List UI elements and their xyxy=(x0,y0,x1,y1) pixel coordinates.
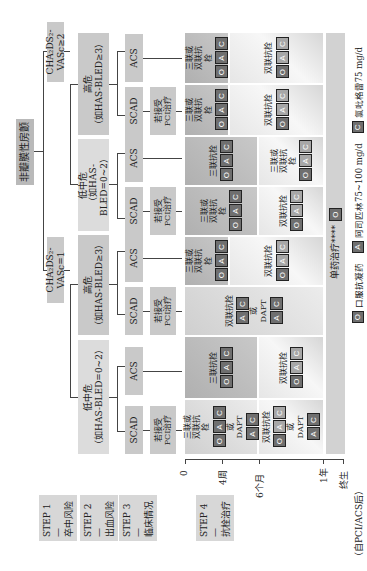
treatment-g1-acs-early: 三联抗栓 OAC xyxy=(185,337,257,398)
scad-node-2: SCAD xyxy=(125,287,143,335)
pci-node-1: 若接受PCI治疗 xyxy=(150,406,176,454)
treatment-g4-acs-late: 双联抗栓 OAC xyxy=(230,33,323,83)
treatment-g2-acs-early: 三联或双联抗栓 OAC xyxy=(185,237,228,285)
treatment-g4-scad-early: 三联或双联抗栓 OAC xyxy=(185,85,228,135)
treatment-g3-acs-late: 三联或双联抗栓 OAC xyxy=(259,137,323,185)
low-bleed-risk-node-1: 低中危（如HAS-BLED=0~2） xyxy=(78,340,109,454)
low-bleed-risk-node-2: 低中危（如HAS-BLED=0~2） xyxy=(78,139,109,231)
tick-6m: 6个月 xyxy=(253,474,266,498)
drug-combo-oac: OAC xyxy=(276,90,289,131)
cha2ds2-vasc-ge2-node: CHA₂DS₂-VASc≥2 xyxy=(47,22,64,82)
drug-combo-oac: OAC xyxy=(290,347,303,388)
drug-combo-oac: OAC xyxy=(213,407,226,448)
treatment-g4-scad-late: 双联抗栓 OAC xyxy=(230,85,323,135)
pci-node-4: 若接受PCI治疗 xyxy=(150,87,176,135)
acs-node-4: ACS xyxy=(125,34,143,82)
pci-node-2: 若接受PCI治疗 xyxy=(150,287,176,335)
drug-combo-oac: OAC xyxy=(273,407,286,448)
drug-combo-oac: OAC xyxy=(299,141,312,182)
acs-node-2: ACS xyxy=(125,234,143,282)
drug-combo-oac: OAC xyxy=(220,347,233,388)
drug-combo-oac: OAC xyxy=(290,191,303,232)
timeline-note: （自PCI/ACS后） xyxy=(352,486,365,561)
connector xyxy=(43,51,44,271)
drug-combo-oac: OAC xyxy=(215,241,228,282)
treatment-g1-scad-early: 三联或双联抗栓 OAC 或 DAPT AC xyxy=(185,400,257,454)
drug-combo-ac: AC xyxy=(246,414,259,441)
timeline-axis xyxy=(185,459,343,460)
tick-0: 0 xyxy=(179,470,189,476)
high-bleed-risk-node-2: 高危（如HAS-BLED≥3） xyxy=(78,33,109,135)
acs-node-3: ACS xyxy=(125,134,143,182)
treatment-g3-scad-late: 双联抗栓 OAC xyxy=(259,187,323,235)
pci-node-3: 若接受PCI治疗 xyxy=(150,187,176,235)
drug-combo-oac: OAC xyxy=(220,141,233,182)
flowchart-stage: 非瓣膜性房颤 CHA₂DS₂-VASc≥2 CHA₂DS₂-VASc=1 高危（… xyxy=(0,0,367,571)
treatment-g2-acs-late: 双联抗栓 OAC xyxy=(230,237,323,285)
legend-item-a: A阿司匹林75~100 mg/d xyxy=(352,143,364,253)
treatment-g3-scad-early: 三联或双联抗栓 OAC xyxy=(185,187,257,235)
step3-label: STEP 3—临床情况 xyxy=(119,495,157,541)
legend: O口服抗凝药 A阿司匹林75~100 mg/d C氯吡格雷75 mg/d xyxy=(352,47,364,323)
tick-4w: 4周 xyxy=(216,470,229,485)
treatment-g4-acs-early: 三联或双联抗栓 OAC xyxy=(185,33,228,83)
drug-combo-oac: OAC xyxy=(215,90,228,131)
drug-combo-oac: OAC xyxy=(215,38,228,79)
treatment-g2-scad: 双联抗栓 AC 或 DAPT AC xyxy=(185,287,323,335)
root-node: 非瓣膜性房颤 xyxy=(16,119,34,185)
legend-item-o: O口服抗凝药 xyxy=(352,263,364,323)
tick-1y: 1年 xyxy=(317,468,330,483)
step4-label: STEP 4—抗栓治疗 xyxy=(196,495,234,541)
acs-node-1: ACS xyxy=(125,347,143,395)
drug-combo-ac: AC xyxy=(236,298,249,325)
step2-label: STEP 2—出血风险 xyxy=(80,495,118,541)
treatment-g1-acs-late: 双联抗栓 OAC xyxy=(259,337,323,398)
step1-label: STEP 1—卒中风险 xyxy=(39,495,77,541)
drug-combo-oac: OAC xyxy=(276,241,289,282)
connector xyxy=(34,151,43,152)
drug-combo-oac: OAC xyxy=(276,38,289,79)
drug-combo-ac: AC xyxy=(307,414,320,441)
cha2ds2-vasc-eq1-node: CHA₂DS₂-VASc=1 xyxy=(47,237,64,303)
legend-item-c: C氯吡格雷75 mg/d xyxy=(352,47,364,133)
drug-combo-o: O xyxy=(329,208,342,221)
high-bleed-risk-node-1: 高危（如HAS-BLED≥3） xyxy=(78,235,109,335)
scad-node-1: SCAD xyxy=(125,406,143,454)
treatment-g1-scad-late: 双联抗栓 OAC 或 DAPT AC xyxy=(259,400,323,454)
treatment-g3-acs-early: 三联抗栓 OAC xyxy=(185,137,257,185)
monotherapy-bar: 单药治疗**** O xyxy=(326,33,345,454)
drug-combo-oac: OAC xyxy=(229,191,242,232)
scad-node-3: SCAD xyxy=(125,187,143,235)
tick-lifelong: 终生 xyxy=(337,471,350,489)
scad-node-4: SCAD xyxy=(125,87,143,135)
drug-combo-ac: AC xyxy=(270,298,283,325)
